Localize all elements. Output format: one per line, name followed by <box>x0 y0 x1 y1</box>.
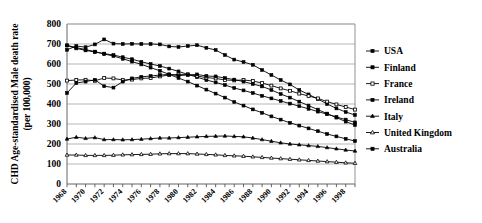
legend-item-france[interactable]: France <box>366 79 413 89</box>
data-point <box>130 153 134 156</box>
data-point <box>186 45 189 48</box>
data-point <box>279 93 282 96</box>
data-point <box>298 100 301 103</box>
data-point <box>307 107 310 110</box>
data-point <box>214 75 217 78</box>
data-point <box>74 135 78 138</box>
data-point <box>354 124 357 127</box>
data-point <box>103 85 106 88</box>
x-tick-label-1990: 1990 <box>255 187 273 205</box>
data-point <box>75 82 78 85</box>
legend-item-italy[interactable]: Italy <box>366 112 403 122</box>
legend-item-australia[interactable]: Australia <box>366 144 422 154</box>
data-point <box>279 100 282 103</box>
legend-item-usa[interactable]: USA <box>366 46 403 56</box>
data-point <box>307 158 311 161</box>
data-point <box>66 48 69 51</box>
data-point <box>242 61 245 64</box>
x-tick-label-1974: 1974 <box>106 187 124 205</box>
chart-legend[interactable]: USAFinlandFranceIrelandItalyUnited Kingd… <box>366 46 452 154</box>
data-point <box>140 75 143 78</box>
data-point <box>261 111 264 114</box>
data-point <box>335 116 338 119</box>
legend-item-finland[interactable]: Finland <box>366 63 416 73</box>
x-tick-label-1982: 1982 <box>181 187 199 205</box>
data-point <box>84 48 87 51</box>
data-point <box>344 106 347 109</box>
legend-label: Finland <box>384 63 416 73</box>
legend-marker <box>370 130 374 134</box>
data-point <box>233 58 236 61</box>
data-point <box>66 79 69 82</box>
data-point <box>242 104 245 107</box>
data-point <box>112 42 115 45</box>
series-line-3 <box>67 74 355 125</box>
data-point <box>65 153 69 156</box>
data-point <box>316 108 319 111</box>
data-point <box>93 78 96 81</box>
line-chart: CHD Age-standardised Male death rate(per… <box>0 0 482 223</box>
data-point <box>344 111 347 114</box>
series-line-6 <box>67 45 355 141</box>
x-tick-label-1980: 1980 <box>162 187 180 205</box>
data-point <box>103 38 106 41</box>
data-point <box>214 92 217 95</box>
data-point <box>316 159 320 162</box>
data-point <box>354 140 357 143</box>
data-point <box>261 85 264 88</box>
data-point <box>261 82 264 85</box>
data-point <box>233 101 236 104</box>
data-point <box>316 97 319 100</box>
data-point <box>158 43 161 46</box>
data-point <box>251 63 254 66</box>
data-point <box>279 157 283 160</box>
data-point <box>261 69 264 72</box>
data-point <box>260 155 264 158</box>
data-point <box>307 95 310 98</box>
data-point <box>298 92 301 95</box>
series-australia <box>66 44 357 143</box>
legend-label: France <box>384 79 413 89</box>
data-point <box>242 89 245 92</box>
data-point <box>66 44 69 47</box>
data-point <box>242 154 246 157</box>
data-point <box>326 112 329 115</box>
legend-item-ireland[interactable]: Ireland <box>366 95 415 105</box>
legend-item-united-kingdom[interactable]: United Kingdom <box>366 128 452 138</box>
data-point <box>353 161 357 164</box>
data-point <box>205 75 208 78</box>
gridlines <box>67 24 355 184</box>
y-tick-label-400: 400 <box>47 99 62 109</box>
data-point <box>354 114 357 117</box>
legend-marker <box>371 98 374 101</box>
data-point <box>102 153 106 156</box>
x-tick-label-1970: 1970 <box>69 187 87 205</box>
legend-marker <box>371 147 374 150</box>
data-point <box>335 160 339 163</box>
data-point <box>93 50 96 53</box>
data-point <box>270 115 273 118</box>
data-point <box>289 96 292 99</box>
data-point <box>84 80 87 83</box>
data-point <box>233 78 236 81</box>
data-point <box>232 154 236 157</box>
y-tick-label-200: 200 <box>47 139 62 149</box>
data-point <box>233 87 236 90</box>
data-point <box>279 118 282 121</box>
x-tick-label-1968: 1968 <box>51 187 69 205</box>
data-point <box>279 79 282 82</box>
data-point <box>186 74 189 77</box>
legend-marker <box>371 82 374 85</box>
data-point <box>93 153 97 156</box>
x-tick-label-1994: 1994 <box>292 187 310 205</box>
data-point <box>326 133 329 136</box>
data-point <box>112 77 115 80</box>
data-point <box>251 92 254 95</box>
y-axis-label: CHD Age-standardised Male death rate(per… <box>10 24 33 185</box>
y-tick-label-700: 700 <box>47 39 62 49</box>
data-point <box>112 55 115 58</box>
data-series <box>65 38 357 164</box>
data-point <box>131 42 134 45</box>
y-axis-label-line-2: (per 100,000) <box>22 77 33 130</box>
data-point <box>158 69 161 72</box>
